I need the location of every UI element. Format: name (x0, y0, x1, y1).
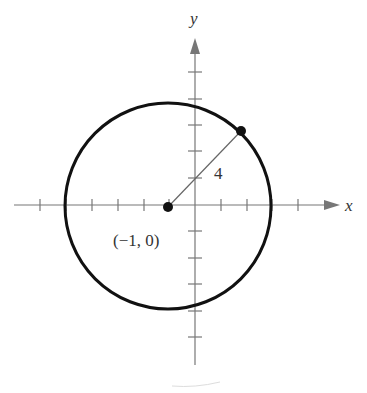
scan-smudge (172, 382, 220, 387)
y-axis-label: y (188, 9, 198, 28)
radius-label: 4 (214, 164, 223, 183)
circle-diagram: x y 4 (−1, 0) (0, 0, 367, 393)
radius-line (168, 131, 241, 207)
x-axis-label: x (344, 196, 353, 215)
center-point (163, 202, 173, 212)
circle-point (236, 126, 246, 136)
y-axis-arrow-icon (190, 38, 200, 54)
center-label: (−1, 0) (113, 231, 159, 250)
x-axis-arrow-icon (324, 200, 340, 210)
